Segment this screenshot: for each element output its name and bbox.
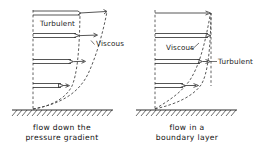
left-viscous-leader (91, 41, 95, 45)
left-turb-head-3 (69, 60, 74, 64)
right-row-1 (155, 11, 211, 15)
right-row-2 (155, 34, 211, 38)
right-viscous-label: Viscous (166, 43, 194, 52)
right-wall-hatching (136, 110, 236, 116)
right-caption-line2: boundary layer (156, 133, 219, 142)
left-row-2 (33, 33, 98, 37)
right-turbulent-label: Turbulent (217, 57, 253, 66)
velocity-profile-figure: Turbulent Viscous flow down the pressure… (0, 0, 260, 147)
left-turb-head-2 (74, 34, 80, 38)
left-turbulent-label: Turbulent (39, 19, 75, 28)
right-turbulent-profile (155, 13, 211, 109)
panel-left: Turbulent Viscous flow down the pressure… (12, 10, 124, 143)
right-wall (136, 110, 237, 116)
left-caption-line2: pressure gradient (25, 133, 98, 142)
left-visc-arrow-2 (80, 35, 96, 36)
left-wall-hatching (12, 110, 112, 116)
right-caption-line1: flow in a (169, 123, 204, 132)
right-row-4 (155, 84, 199, 88)
panel-right: Viscous Turbulent flow in a boundary la (136, 10, 253, 142)
left-visc-arrow-1 (80, 12, 106, 14)
left-caption-line1: flow down the (33, 123, 91, 132)
right-row-3 (155, 60, 211, 64)
left-viscous-label: Viscous (96, 39, 124, 48)
left-wall (12, 110, 113, 116)
left-turb-head-4 (59, 84, 64, 88)
left-row-1 (33, 10, 107, 16)
left-row-4 (33, 84, 70, 88)
